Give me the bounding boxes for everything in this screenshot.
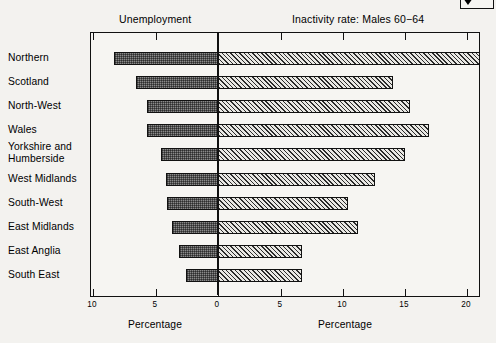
axis-tick-label-5: 15 — [399, 300, 409, 309]
axis-tick-label-4: 10 — [337, 300, 347, 309]
category-label: East Midlands — [8, 221, 88, 233]
bar-inactivity — [218, 269, 302, 282]
bar-unemployment — [136, 76, 218, 89]
bar-inactivity — [218, 173, 375, 186]
bar-unemployment — [172, 221, 218, 234]
bar-unemployment — [166, 173, 218, 186]
bar-unemployment — [179, 245, 218, 258]
bar-row — [91, 173, 479, 186]
bar-unemployment — [167, 197, 218, 210]
category-label: South-West — [8, 197, 88, 209]
category-label: Northern — [8, 52, 88, 64]
bar-row — [91, 76, 479, 89]
axis-tick-bot-0-2 — [218, 289, 219, 296]
bar-row — [91, 148, 479, 161]
category-label: South East — [8, 269, 88, 281]
axis-caption-left: Percentage — [128, 319, 182, 330]
bar-inactivity — [218, 76, 393, 89]
category-label: West Midlands — [8, 173, 88, 185]
bar-inactivity — [218, 124, 429, 137]
axis-tick-label-0: 10 — [87, 300, 97, 309]
axis-tick-label-2: 0 — [215, 300, 220, 309]
bar-row — [91, 221, 479, 234]
bar-row — [91, 245, 479, 258]
bar-inactivity — [218, 100, 410, 113]
category-label: North-West — [8, 100, 88, 112]
bar-inactivity — [218, 245, 302, 258]
bar-inactivity — [218, 52, 480, 65]
axis-tick-bot-5-3 — [281, 289, 282, 296]
axis-tick-top-5-1 — [156, 33, 157, 40]
axis-tick-top-15-5 — [405, 33, 406, 40]
axis-tick-bot-20-6 — [467, 289, 468, 296]
bar-row — [91, 100, 479, 113]
triangle-down-icon — [463, 0, 473, 5]
category-label: Wales — [8, 124, 88, 136]
axis-tick-top-0-2 — [218, 33, 219, 40]
bar-unemployment — [147, 124, 218, 137]
axis-tick-top-20-6 — [467, 33, 468, 40]
bar-row — [91, 124, 479, 137]
dropdown-control[interactable] — [460, 0, 494, 9]
plot-area — [90, 32, 480, 297]
axis-tick-label-3: 5 — [278, 300, 283, 309]
bar-row — [91, 269, 479, 282]
category-label: Scotland — [8, 76, 88, 88]
axis-tick-top-10-4 — [343, 33, 344, 40]
bar-unemployment — [114, 52, 218, 65]
axis-tick-bot-5-1 — [156, 289, 157, 296]
axis-tick-bot-10-0 — [93, 289, 94, 296]
bar-row — [91, 52, 479, 65]
bar-inactivity — [218, 197, 348, 210]
axis-tick-top-5-3 — [281, 33, 282, 40]
axis-tick-bot-15-5 — [405, 289, 406, 296]
chart-sheet: Unemployment Inactivity rate: Males 60−6… — [0, 0, 496, 343]
axis-caption-right: Percentage — [318, 319, 372, 330]
axis-tick-label-1: 5 — [153, 300, 158, 309]
axis-tick-label-6: 20 — [461, 300, 471, 309]
category-label: East Anglia — [8, 245, 88, 257]
bar-inactivity — [218, 221, 358, 234]
category-label: Yorkshire and Humberside — [8, 141, 88, 164]
header-inactivity: Inactivity rate: Males 60−64 — [292, 13, 424, 25]
axis-tick-bot-10-4 — [343, 289, 344, 296]
bar-row — [91, 197, 479, 210]
axis-tick-top-10-0 — [93, 33, 94, 40]
bar-unemployment — [186, 269, 218, 282]
bar-unemployment — [161, 148, 218, 161]
bar-inactivity — [218, 148, 405, 161]
header-unemployment: Unemployment — [119, 13, 191, 25]
bar-unemployment — [147, 100, 218, 113]
